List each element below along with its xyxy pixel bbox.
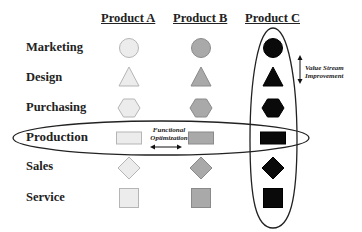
row-label-production: Production — [26, 129, 88, 145]
shape-design-product-c-triangle — [263, 67, 283, 86]
shape-service-product-a-square — [120, 189, 139, 208]
shape-sales-product-c-diamond — [262, 157, 284, 179]
value-stream-matrix-diagram: Product A Product B Product C Marketing … — [0, 0, 362, 232]
row-label-sales: Sales — [26, 159, 53, 174]
functional-optimization-label: Functional Optimization — [146, 126, 192, 142]
shape-service-product-b-square — [192, 189, 211, 208]
row-label-service: Service — [26, 190, 65, 205]
shape-production-product-a-rectangle — [117, 132, 142, 144]
shape-production-product-c-rectangle — [261, 132, 286, 144]
shape-design-product-a-triangle — [119, 67, 139, 86]
functional-arrow-left-head — [150, 145, 155, 150]
row-label-design: Design — [26, 70, 62, 85]
value-stream-improvement-label: Value Stream Improvement — [305, 64, 344, 80]
shape-marketing-product-a-circle — [120, 39, 139, 58]
value-stream-line2: Improvement — [305, 72, 344, 80]
shape-purchasing-product-a-hexagon — [118, 99, 140, 117]
value-stream-arrow-down-head — [298, 79, 303, 84]
header-product-b: Product B — [173, 11, 227, 26]
shape-purchasing-product-c-hexagon — [262, 99, 284, 117]
shape-design-product-b-triangle — [191, 67, 211, 86]
shape-production-product-b-rectangle — [189, 132, 214, 144]
shape-purchasing-product-b-hexagon — [190, 99, 212, 117]
shape-sales-product-a-diamond — [118, 157, 140, 179]
row-label-marketing: Marketing — [26, 40, 83, 55]
value-stream-line1: Value Stream — [305, 64, 344, 72]
functional-line2: Optimization — [146, 134, 192, 142]
header-product-c: Product C — [245, 11, 300, 26]
functional-line1: Functional — [146, 126, 192, 134]
shape-service-product-c-square — [264, 189, 283, 208]
value-stream-arrow-up-head — [298, 55, 303, 60]
functional-arrow-right-head — [177, 145, 182, 150]
shape-marketing-product-c-circle — [264, 39, 283, 58]
row-label-purchasing: Purchasing — [26, 100, 86, 115]
shape-marketing-product-b-circle — [192, 39, 211, 58]
shape-sales-product-b-diamond — [190, 157, 212, 179]
header-product-a: Product A — [101, 11, 155, 26]
